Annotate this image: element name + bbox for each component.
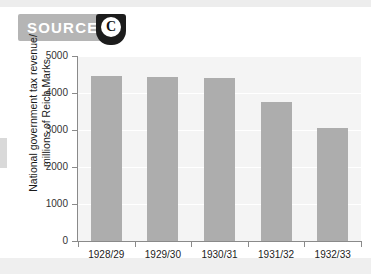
y-axis-line <box>77 56 78 242</box>
bar <box>261 102 292 241</box>
y-axis-title: National government tax revenue/ million… <box>27 13 53 213</box>
bar <box>91 76 122 241</box>
x-axis-tick <box>135 241 136 247</box>
y-axis-tick <box>72 93 78 94</box>
bar <box>204 78 235 241</box>
x-axis-tick-label: 1928/29 <box>78 249 135 260</box>
y-axis-tick <box>72 56 78 57</box>
y-axis-tick <box>72 167 78 168</box>
x-axis-tick-label: 1930/31 <box>191 249 248 260</box>
bar <box>317 128 348 241</box>
y-axis-tick <box>72 130 78 131</box>
x-axis-tick <box>304 241 305 247</box>
bar <box>147 77 178 241</box>
x-axis-tick-label: 1932/33 <box>304 249 361 260</box>
x-axis-tick-label: 1931/32 <box>248 249 305 260</box>
x-axis-tick <box>78 241 79 247</box>
y-axis-tick <box>72 204 78 205</box>
y-axis-title-line2: millions of Reich Marks <box>40 59 52 167</box>
y-axis-title-line1: National government tax revenue/ <box>27 34 39 192</box>
x-axis-tick <box>361 241 362 247</box>
x-axis-tick <box>191 241 192 247</box>
chart-page: SOURCE C 0100020003000400050001928/29192… <box>0 0 371 274</box>
bar-chart: 0100020003000400050001928/291929/301930/… <box>0 0 371 274</box>
x-axis-tick-label: 1929/30 <box>135 249 192 260</box>
x-axis-tick <box>248 241 249 247</box>
x-axis-line <box>77 241 362 242</box>
y-axis-tick-label: 0 <box>22 235 68 246</box>
gridline <box>78 56 361 57</box>
